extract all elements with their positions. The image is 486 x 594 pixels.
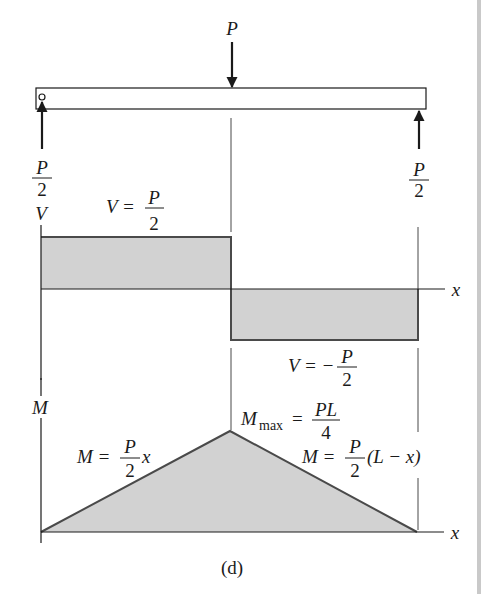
shear-diagram: V x V = P 2 V = − P 2 [35, 187, 461, 390]
moment-axis-label: M [31, 397, 49, 418]
svg-text:M: M [240, 408, 258, 429]
shear-x-label: x [451, 279, 461, 300]
svg-text:max: max [259, 418, 283, 433]
svg-text:x: x [141, 446, 151, 467]
svg-text:2: 2 [350, 460, 360, 481]
svg-text:P: P [340, 346, 353, 367]
beam-section: P P 2 P 2 [32, 18, 429, 201]
beam-shear-moment-diagram: P P 2 P 2 V x V = P [0, 0, 486, 594]
svg-text:=: = [292, 408, 303, 429]
shear-right-label: V = − P 2 [288, 346, 357, 390]
pin-support-icon [39, 94, 45, 100]
svg-text:P: P [147, 187, 160, 208]
right-reaction-label: P 2 [409, 159, 429, 201]
moment-right-label: M = P 2 (L − x) [301, 436, 421, 481]
shear-left-label: V = P 2 [106, 187, 164, 234]
moment-left-label: M = P 2 x [76, 436, 151, 481]
applied-load-label: P [225, 18, 238, 39]
shear-positive-region [41, 237, 231, 289]
page-edge-bar [477, 0, 481, 594]
shear-axis-label: V [35, 203, 49, 224]
svg-text:P: P [412, 159, 425, 180]
svg-text:4: 4 [321, 422, 331, 443]
svg-text:2: 2 [125, 460, 135, 481]
moment-diagram: M x M max = PL 4 M = P 2 x M = P 2 (L − … [31, 378, 460, 543]
figure-caption: (d) [221, 557, 243, 579]
svg-text:M =: M = [301, 446, 335, 467]
svg-text:2: 2 [149, 213, 159, 234]
shear-negative-region [231, 289, 418, 340]
svg-text:P: P [348, 436, 361, 457]
svg-text:P: P [35, 157, 48, 178]
svg-text:V = −: V = − [288, 355, 334, 376]
svg-text:PL: PL [314, 399, 337, 420]
left-reaction-label: P 2 [32, 157, 52, 200]
svg-text:2: 2 [37, 179, 47, 200]
moment-x-label: x [450, 522, 460, 543]
svg-text:V =: V = [106, 196, 135, 217]
moment-max-label: M max = PL 4 [240, 399, 340, 443]
svg-text:2: 2 [414, 180, 424, 201]
svg-text:M =: M = [76, 446, 110, 467]
beam [36, 88, 426, 109]
svg-text:(L − x): (L − x) [367, 446, 421, 468]
svg-text:2: 2 [342, 369, 352, 390]
svg-text:P: P [123, 436, 136, 457]
